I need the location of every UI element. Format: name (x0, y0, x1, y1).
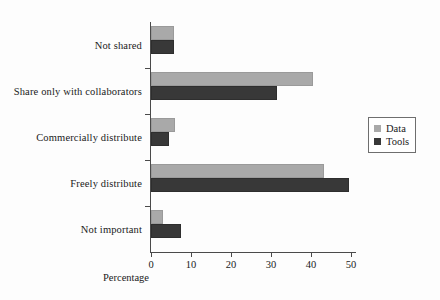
x-axis-tick (311, 252, 312, 257)
x-axis-tick-label: 30 (266, 259, 277, 270)
bar-tools (151, 178, 349, 192)
bar-tools (151, 86, 277, 100)
x-axis-tick (231, 252, 232, 257)
category-group: Freely distribute (151, 160, 355, 206)
chart-legend: DataTools (368, 117, 416, 153)
legend-label: Tools (386, 136, 409, 147)
x-axis-tick (351, 252, 352, 257)
x-axis-tick (191, 252, 192, 257)
y-axis-tick-label: Not important (81, 224, 142, 235)
y-axis-tick-label: Share only with collaborators (14, 86, 142, 97)
bar-tools (151, 132, 169, 146)
y-axis-tick (145, 160, 150, 161)
bar-data (151, 72, 313, 86)
legend-label: Data (386, 123, 406, 134)
bar-data (151, 164, 324, 178)
x-axis-tick-label: 40 (306, 259, 317, 270)
y-axis-tick-label: Commercially distribute (36, 132, 142, 143)
x-axis-tick-label: 50 (346, 259, 357, 270)
category-group: Commercially distribute (151, 114, 355, 160)
plot-area: Not sharedShare only with collaboratorsC… (151, 22, 355, 252)
x-axis-tick-label: 0 (148, 259, 153, 270)
y-axis-tick-label: Not shared (95, 40, 142, 51)
bar-tools (151, 224, 181, 238)
x-axis-tick-label: 20 (226, 259, 237, 270)
x-axis-tick-label: 10 (186, 259, 197, 270)
category-group: Not important (151, 206, 355, 252)
legend-swatch-icon (374, 138, 381, 145)
legend-entry: Data (374, 122, 409, 135)
category-group: Not shared (151, 22, 355, 68)
bar-data (151, 118, 175, 132)
x-axis-tick (271, 252, 272, 257)
category-group: Share only with collaborators (151, 68, 355, 114)
y-axis-tick (145, 114, 150, 115)
bar-tools (151, 40, 174, 54)
bar-data (151, 210, 163, 224)
x-axis-tick (151, 252, 152, 257)
y-axis-tick (145, 68, 150, 69)
legend-swatch-icon (374, 125, 381, 132)
bar-data (151, 26, 174, 40)
x-axis-line (151, 252, 356, 253)
legend-entry: Tools (374, 135, 409, 148)
y-axis-tick-label: Freely distribute (70, 178, 142, 189)
x-axis-title: Percentage (0, 272, 440, 283)
bar-chart-figure: Not sharedShare only with collaboratorsC… (0, 0, 440, 300)
y-axis-tick (145, 206, 150, 207)
